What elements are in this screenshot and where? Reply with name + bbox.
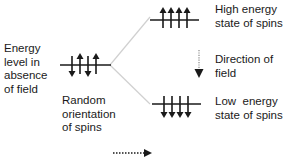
- spin-up-icon: [184, 7, 191, 28]
- spin-down-icon: [85, 56, 92, 77]
- label-line: of field: [4, 83, 47, 97]
- label-random-orientation: Random orientation of spins: [62, 94, 116, 135]
- dotted-right-arrow-icon: [113, 149, 152, 157]
- spin-up-icon: [77, 53, 84, 74]
- spin-down-icon: [169, 96, 176, 118]
- label-line: orientation: [62, 108, 116, 122]
- label-direction-of-field: Direction of field: [215, 53, 273, 80]
- spin-up-icon: [168, 7, 175, 28]
- spin-up-icon: [160, 7, 167, 28]
- label-line: absence: [4, 69, 47, 83]
- label-line: state of spins: [215, 17, 283, 31]
- center-energy-level: [60, 53, 111, 77]
- label-line: level in: [4, 56, 47, 70]
- spin-up-icon: [176, 7, 183, 28]
- label-low-energy-state: Low energy state of spins: [215, 95, 283, 122]
- spin-down-icon: [185, 96, 192, 118]
- label-line: field: [215, 67, 273, 81]
- label-high-energy-state: High energy state of spins: [215, 3, 283, 30]
- label-energy-level-absence-field: Energy level in absence of field: [4, 42, 47, 96]
- label-line: Low energy: [215, 95, 283, 109]
- high-energy-level: [150, 7, 199, 28]
- label-line: Energy: [4, 42, 47, 56]
- spin-down-icon: [177, 96, 184, 118]
- low-energy-level: [152, 96, 201, 118]
- spin-down-icon: [161, 96, 168, 118]
- field-direction-arrow-icon: [195, 50, 204, 78]
- label-line: of spins: [62, 121, 116, 135]
- spin-down-icon: [69, 56, 76, 77]
- label-line: Random: [62, 94, 116, 108]
- label-line: Direction of: [215, 53, 273, 67]
- connector-to-high: [110, 17, 150, 65]
- spin-up-icon: [93, 53, 100, 74]
- label-line: High energy: [215, 3, 283, 17]
- label-line: state of spins: [215, 109, 283, 123]
- connector-to-low: [110, 65, 150, 104]
